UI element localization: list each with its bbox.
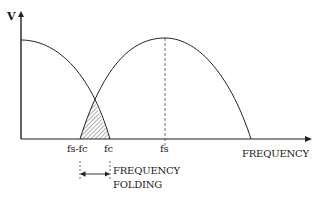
- tick-label-fc: fc: [104, 144, 113, 154]
- y-axis-arrow-icon: [18, 11, 24, 17]
- folding-region-hatch: [80, 101, 110, 139]
- folding-annotation-line1: FREQUENCY: [113, 166, 180, 176]
- tick-label-fs: fs: [160, 144, 168, 154]
- folding-annotation-line2: FOLDING: [113, 180, 162, 190]
- x-axis-label: FREQUENCY: [242, 149, 309, 159]
- tick-label-fs-minus-fc: fs-fc: [67, 144, 88, 154]
- x-axis-arrow-icon: [305, 136, 312, 142]
- y-axis-label: V: [7, 11, 15, 22]
